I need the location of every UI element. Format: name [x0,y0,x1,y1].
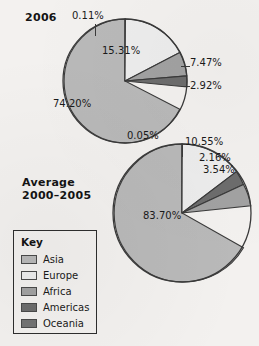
slice-value-asia-average: 83.70% [143,210,181,221]
figure-canvas: 2006 0.11% 15.31% 7.47% 2.92% 74.20% [0,0,259,346]
slice-value-americas-2006: 2.92% [190,80,222,91]
slice-value-africa-2006: 7.47% [190,57,222,68]
leader-line-oceania-2006 [95,24,96,36]
period-title-average: Average 2000–2005 [22,176,91,202]
legend-swatch-oceania [21,319,37,328]
slice-value-oceania-average: 0.05% [127,130,159,141]
leader-line-africa-2006 [181,66,190,67]
slice-value-europe-2006: 15.31% [102,45,140,56]
legend-label-africa: Africa [43,286,72,297]
leader-line-oceania-average [182,144,183,157]
slice-value-africa-average: 3.54% [203,164,235,175]
slice-value-oceania-2006: 0.11% [72,10,104,21]
legend-label-europe: Europe [43,270,78,281]
legend-label-americas: Americas [43,302,89,313]
legend-swatch-asia [21,255,37,264]
legend-item-europe: Europe [21,267,96,283]
legend-swatch-africa [21,287,37,296]
legend-swatch-europe [21,271,37,280]
slice-value-asia-2006: 74.20% [53,98,91,109]
legend-label-asia: Asia [43,254,64,265]
legend-item-africa: Africa [21,283,96,299]
legend-title: Key [21,236,96,248]
legend-item-americas: Americas [21,299,96,315]
legend-label-oceania: Oceania [43,318,84,329]
legend-item-oceania: Oceania [21,315,96,331]
period-title-2006: 2006 [25,11,57,24]
pie-chart-2006 [62,18,188,144]
slice-value-europe-average: 10.55% [185,136,223,147]
leader-line-americas-2006 [181,86,190,87]
legend-box: Key Asia Europe Africa Americas Oceania [13,230,97,334]
legend-swatch-americas [21,303,37,312]
slice-value-americas-average: 2.16% [199,152,231,163]
legend-item-asia: Asia [21,251,96,267]
